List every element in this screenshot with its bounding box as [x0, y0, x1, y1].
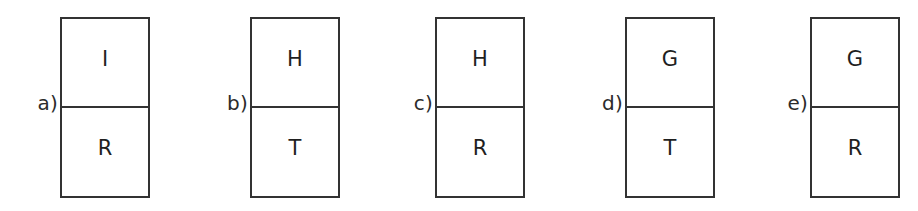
- option-e-top-letter: G: [812, 47, 898, 71]
- option-d-top-letter: G: [627, 47, 713, 71]
- option-d-top-cell: G: [627, 19, 713, 108]
- option-b-box: H T: [250, 17, 340, 198]
- option-c-bottom-letter: R: [437, 136, 523, 160]
- option-e-top-cell: G: [812, 19, 898, 108]
- option-a-bottom-letter: R: [62, 136, 148, 160]
- option-a-bottom-cell: R: [62, 108, 148, 197]
- option-e-box: G R: [810, 17, 900, 198]
- option-label-c: c): [393, 90, 433, 116]
- option-d-bottom-letter: T: [627, 136, 713, 160]
- option-e-bottom-cell: R: [812, 108, 898, 197]
- option-a-top-cell: I: [62, 19, 148, 108]
- option-c-top-letter: H: [437, 47, 523, 71]
- option-d-box: G T: [625, 17, 715, 198]
- option-e-bottom-letter: R: [812, 136, 898, 160]
- option-label-e: e): [768, 90, 808, 116]
- option-b-bottom-letter: T: [252, 136, 338, 160]
- option-b-top-letter: H: [252, 47, 338, 71]
- option-d-bottom-cell: T: [627, 108, 713, 197]
- option-a-box: I R: [60, 17, 150, 198]
- option-label-b: b): [208, 90, 248, 116]
- option-c-bottom-cell: R: [437, 108, 523, 197]
- option-b-bottom-cell: T: [252, 108, 338, 197]
- option-b-top-cell: H: [252, 19, 338, 108]
- option-a-top-letter: I: [62, 47, 148, 71]
- option-label-a: a): [18, 90, 58, 116]
- option-c-box: H R: [435, 17, 525, 198]
- option-c-top-cell: H: [437, 19, 523, 108]
- multiple-choice-figure: a) I R b) H T c) H R: [0, 0, 918, 211]
- option-label-d: d): [583, 90, 623, 116]
